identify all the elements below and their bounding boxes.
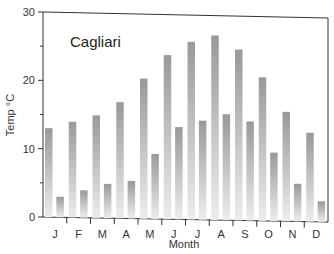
- month-label: J: [52, 228, 58, 240]
- month-label: M: [145, 228, 154, 240]
- y-tick-label: 20: [23, 74, 35, 86]
- month-label: O: [264, 228, 273, 240]
- bar-max-5: [164, 55, 172, 219]
- bar-min-3: [128, 181, 136, 219]
- bar-min-9: [270, 153, 278, 221]
- bar-max-9: [259, 77, 267, 221]
- bar-min-10: [294, 184, 302, 222]
- y-tick-label: 0: [29, 211, 35, 223]
- bar-max-4: [140, 79, 148, 219]
- month-label: N: [288, 228, 296, 240]
- bar-max-6: [188, 42, 196, 220]
- x-axis-title: Month: [169, 238, 200, 250]
- bar-max-3: [116, 102, 124, 218]
- y-tick-label: 30: [23, 6, 35, 18]
- month-label: S: [241, 228, 248, 240]
- bar-min-6: [199, 121, 207, 220]
- bars-group: [45, 35, 325, 221]
- bar-min-11: [318, 201, 326, 222]
- bar-max-7: [211, 35, 219, 220]
- month-label: A: [122, 228, 130, 240]
- bar-max-10: [283, 112, 291, 221]
- month-label: F: [75, 228, 82, 240]
- bar-max-2: [93, 115, 101, 218]
- bar-max-11: [306, 133, 314, 222]
- bar-min-4: [151, 154, 159, 219]
- bar-min-0: [56, 197, 64, 218]
- y-axis-title: Temp °C: [4, 94, 16, 136]
- month-label: D: [312, 228, 320, 240]
- y-axis: 0102030: [23, 6, 43, 223]
- frame-top: [43, 12, 328, 18]
- temperature-bar-chart: 0102030 JFMAMJJASOND Cagliari Temp °C Mo…: [0, 0, 334, 254]
- bar-max-8: [235, 50, 243, 221]
- chart-title: Cagliari: [70, 33, 121, 50]
- y-tick-label: 10: [23, 143, 35, 155]
- bar-min-7: [223, 114, 231, 220]
- bar-min-1: [80, 190, 88, 217]
- month-label: A: [217, 228, 225, 240]
- bar-min-5: [175, 127, 183, 219]
- month-label: M: [98, 228, 107, 240]
- bar-max-1: [69, 122, 77, 218]
- bar-min-8: [246, 121, 254, 220]
- bar-min-2: [104, 184, 112, 218]
- bar-max-0: [45, 128, 53, 217]
